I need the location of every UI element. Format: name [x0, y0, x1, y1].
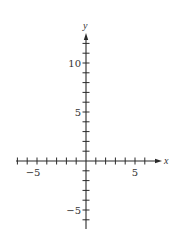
y-tick-label: 10 [68, 58, 81, 69]
y-tick-label: 5 [75, 107, 81, 118]
x-axis-tick-labels: −55 [26, 167, 139, 178]
x-axis-label: x [163, 155, 169, 166]
x-tick-label: 5 [132, 167, 138, 178]
y-tick-label: −5 [66, 205, 81, 216]
axes-svg: x y −55 105−5 [0, 0, 181, 243]
coordinate-plane: x y −55 105−5 [0, 0, 181, 243]
x-tick-label: −5 [26, 167, 41, 178]
y-axis-tick-labels: 105−5 [66, 58, 81, 216]
x-axis-arrow-icon [155, 159, 162, 163]
y-axis-arrow-icon [84, 33, 88, 40]
y-axis-label: y [82, 20, 88, 31]
